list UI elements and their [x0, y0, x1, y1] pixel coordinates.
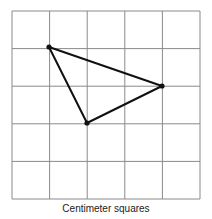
centimeter-grid	[12, 11, 200, 199]
vertex-dot	[159, 83, 164, 88]
vertex-dot	[84, 120, 89, 125]
diagram-caption: Centimeter squares	[0, 203, 212, 214]
grid-diagram	[0, 0, 212, 219]
vertex-dot	[46, 44, 51, 49]
triangle	[49, 47, 162, 123]
